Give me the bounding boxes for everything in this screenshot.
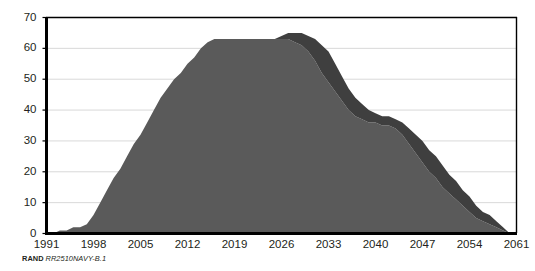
- figure-caption: RANDRR2510NAVY-B.1: [22, 254, 106, 263]
- y-tick-label: 20: [7, 166, 37, 177]
- y-tick-label: 60: [7, 42, 37, 53]
- x-tick-label: 2054: [447, 239, 493, 250]
- y-tick-label: 0: [7, 228, 37, 239]
- y-tick-label: 10: [7, 197, 37, 208]
- x-tick-label: 1998: [71, 239, 117, 250]
- document-id-label: RR2510NAVY-B.1: [46, 254, 107, 263]
- y-tick-label: 30: [7, 135, 37, 146]
- x-tick-label: 2061: [494, 239, 535, 250]
- x-tick-label: 2019: [212, 239, 258, 250]
- x-tick-label: 2005: [118, 239, 164, 250]
- chart-plot-area: 010203040506070 199119982005201220192026…: [0, 0, 535, 248]
- x-tick-label: 2026: [259, 239, 305, 250]
- x-tick-label: 1991: [24, 239, 70, 250]
- y-tick-label: 50: [7, 73, 37, 84]
- rand-brand-label: RAND: [22, 254, 44, 263]
- x-tick-label: 2040: [353, 239, 399, 250]
- y-tick-label: 70: [7, 12, 37, 23]
- area-chart-svg: [0, 0, 535, 248]
- area-series-lower: [47, 39, 517, 233]
- y-tick-label: 40: [7, 104, 37, 115]
- x-tick-label: 2047: [400, 239, 446, 250]
- x-tick-label: 2033: [306, 239, 352, 250]
- figure-container: 010203040506070 199119982005201220192026…: [0, 0, 535, 271]
- x-tick-label: 2012: [165, 239, 211, 250]
